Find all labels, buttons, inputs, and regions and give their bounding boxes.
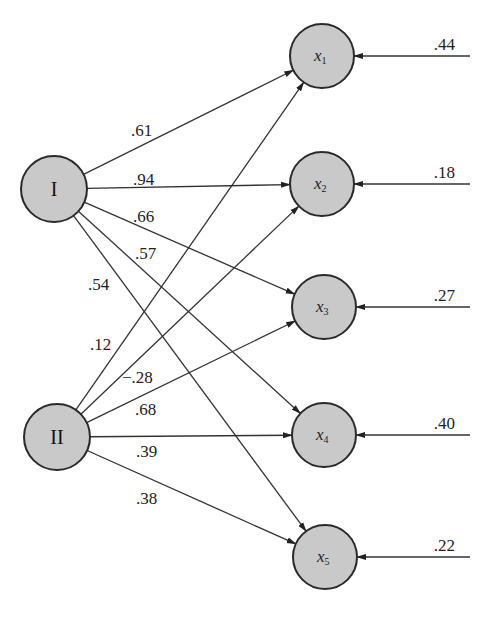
loading-path-II-x4 bbox=[90, 435, 292, 437]
variable-node-x1: x1 bbox=[290, 24, 354, 88]
error-value-x4: .40 bbox=[434, 414, 455, 433]
factor-label: II bbox=[50, 426, 63, 448]
error-paths: .44.18.27.40.22 bbox=[354, 35, 470, 557]
loading-value-II-x1: .12 bbox=[90, 335, 111, 354]
factor-node-II: II bbox=[24, 404, 90, 470]
loading-value-I-x3: .66 bbox=[133, 207, 154, 226]
loading-path-I-x3 bbox=[84, 202, 294, 294]
loading-path-I-x1 bbox=[84, 70, 294, 174]
variable-node-x2: x2 bbox=[290, 152, 354, 216]
loading-value-II-x2: −.28 bbox=[122, 368, 153, 387]
loading-value-I-x5: .54 bbox=[88, 275, 110, 294]
nodes: IIIx1x2x3x4x5 bbox=[21, 24, 357, 589]
loading-path-II-x3 bbox=[87, 321, 296, 423]
loading-path-I-x4 bbox=[78, 211, 300, 413]
error-value-x1: .44 bbox=[434, 35, 456, 54]
loading-path-II-x5 bbox=[87, 450, 296, 543]
loading-path-II-x1 bbox=[76, 82, 304, 410]
loading-path-I-x2 bbox=[87, 185, 290, 189]
variable-node-x3: x3 bbox=[292, 275, 356, 339]
loading-value-II-x4: .39 bbox=[136, 442, 157, 461]
error-value-x2: .18 bbox=[434, 163, 455, 182]
loading-path-I-x5 bbox=[74, 216, 306, 532]
error-value-x3: .27 bbox=[434, 286, 456, 305]
factor-node-I: I bbox=[21, 156, 87, 222]
variable-node-x5: x5 bbox=[293, 525, 357, 589]
loading-value-I-x2: .94 bbox=[133, 170, 155, 189]
loading-paths bbox=[74, 70, 306, 544]
loading-value-II-x5: .38 bbox=[136, 489, 157, 508]
path-diagram: .44.18.27.40.22 IIIx1x2x3x4x5 .61.94.66.… bbox=[0, 0, 501, 619]
loading-value-I-x4: .57 bbox=[135, 244, 157, 263]
factor-label: I bbox=[51, 178, 58, 200]
loading-value-I-x1: .61 bbox=[131, 121, 152, 140]
error-value-x5: .22 bbox=[434, 536, 455, 555]
loading-value-II-x3: .68 bbox=[135, 400, 156, 419]
variable-node-x4: x4 bbox=[292, 403, 356, 467]
